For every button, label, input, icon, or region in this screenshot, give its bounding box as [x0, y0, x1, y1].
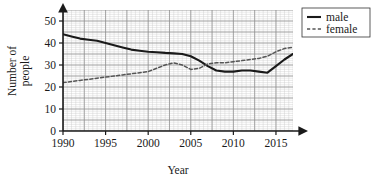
- y-tick-label: 50: [45, 15, 57, 27]
- y-tick-label: 30: [45, 59, 57, 71]
- x-tick-label: 2000: [137, 137, 160, 149]
- line-chart: 01020304050 199019952000200520102015 Yea…: [0, 0, 376, 182]
- legend-label-male: male: [326, 11, 348, 23]
- legend: male female: [302, 8, 370, 37]
- y-tick-label: 20: [45, 81, 57, 93]
- x-tick-label: 2015: [264, 137, 287, 149]
- y-axis-ticks: 01020304050: [45, 15, 64, 137]
- y-tick-label: 40: [45, 37, 57, 49]
- legend-label-female: female: [326, 23, 357, 35]
- x-tick-label: 1990: [52, 137, 75, 149]
- y-tick-label: 10: [45, 103, 57, 115]
- y-axis-title-line1: Number of: [6, 46, 18, 96]
- x-axis-ticks: 199019952000200520102015: [52, 131, 288, 149]
- x-tick-label: 2005: [179, 137, 202, 149]
- x-tick-label: 1995: [94, 137, 117, 149]
- y-axis-title: Number of people: [6, 46, 32, 96]
- x-tick-label: 2010: [222, 137, 245, 149]
- x-axis-title: Year: [167, 164, 188, 176]
- chart-figure: 01020304050 199019952000200520102015 Yea…: [0, 0, 376, 182]
- y-tick-label: 0: [50, 125, 56, 137]
- y-axis-title-line2: people: [19, 56, 32, 87]
